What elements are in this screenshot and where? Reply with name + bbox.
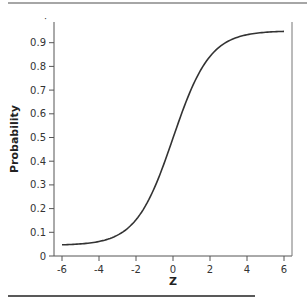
axes: ˙	[43, 17, 292, 256]
x-tick-label: 2	[207, 264, 213, 275]
y-tick-label: 0.7	[30, 85, 46, 96]
x-tick-label: -2	[131, 264, 141, 275]
x-tick-label: 0	[170, 264, 176, 275]
y-tick-label: 0.1	[30, 227, 46, 238]
x-tick-label: -6	[57, 264, 67, 275]
x-tick-label: -4	[94, 264, 104, 275]
y-tick-label: 0.2	[30, 203, 46, 214]
x-axis-ticks: -6-4-20246	[57, 256, 287, 275]
x-tick-label: 6	[281, 264, 287, 275]
y-tick-label: 0	[40, 251, 46, 262]
logistic-chart: ˙ 00.10.20.30.40.50.60.70.80.9 -6-4-2024…	[0, 0, 307, 307]
y-axis-top-mark: ˙	[43, 17, 48, 28]
y-tick-label: 0.9	[30, 37, 46, 48]
x-axis-title: Z	[169, 275, 177, 288]
y-tick-label: 0.8	[30, 61, 46, 72]
y-tick-label: 0.5	[30, 132, 46, 143]
x-tick-label: 4	[244, 264, 250, 275]
y-tick-label: 0.4	[30, 156, 46, 167]
y-tick-label: 0.3	[30, 179, 46, 190]
y-axis-ticks: 00.10.20.30.40.50.60.70.80.9	[30, 37, 54, 261]
logistic-curve	[62, 31, 284, 244]
y-tick-label: 0.6	[30, 108, 46, 119]
y-axis-title: Probability	[8, 105, 21, 173]
